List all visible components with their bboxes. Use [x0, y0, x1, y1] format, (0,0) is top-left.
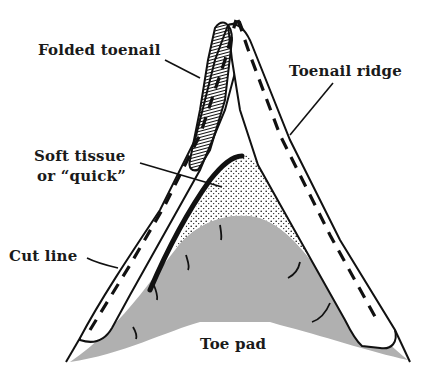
leader-cut-line: [87, 258, 118, 268]
label-toenail-ridge: Toenail ridge: [289, 63, 402, 80]
label-soft-tissue-line2: or “quick”: [37, 168, 126, 185]
label-folded-toenail: Folded toenail: [38, 42, 161, 59]
leader-toenail-ridge: [290, 83, 333, 135]
label-toe-pad: Toe pad: [200, 336, 266, 353]
folded-toenail-shape: [189, 23, 232, 171]
label-cut-line: Cut line: [9, 248, 77, 265]
leader-folded-toenail: [165, 60, 200, 78]
label-soft-tissue-line1: Soft tissue: [34, 148, 126, 165]
